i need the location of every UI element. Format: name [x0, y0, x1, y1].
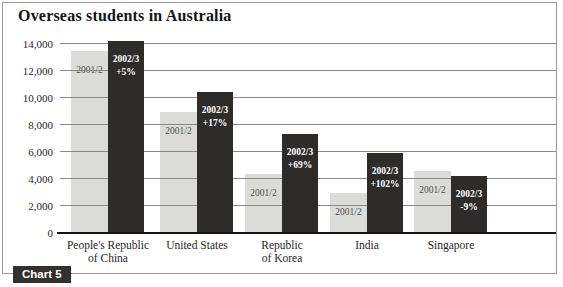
bar-series-label: 2002/3 [367, 153, 403, 178]
chart-number-badge: Chart 5 [13, 266, 71, 283]
bar-change-label: +5% [108, 66, 144, 79]
bar-series-label: 2001/2 [330, 193, 367, 219]
bar-2002-3: 2002/3+17% [197, 92, 233, 233]
bar-change-label: -9% [451, 201, 487, 214]
bar-series-label: 2002/3 [451, 176, 487, 201]
y-axis-tick-label: 12,000 [23, 65, 53, 77]
x-axis-baseline [57, 232, 556, 234]
y-axis-tick-label: 8,000 [28, 119, 53, 131]
bar-2002-3: 2002/3-9% [451, 176, 487, 233]
bar-change-label: +17% [197, 117, 233, 130]
bar-series-label: 2001/2 [414, 171, 451, 197]
y-axis-tick-label: 0 [48, 227, 54, 239]
bar-series-label: 2001/2 [71, 51, 108, 77]
bar-2001-2: 2001/2 [414, 171, 451, 233]
chart-page: Overseas students in Australia 02,0004,0… [0, 0, 563, 287]
y-axis-tick-label: 14,000 [23, 38, 53, 50]
bar-series-label: 2002/3 [282, 134, 318, 159]
bar-2002-3: 2002/3+5% [108, 41, 144, 233]
bar-2002-3: 2002/3+102% [367, 153, 403, 233]
y-axis-tick-label: 10,000 [23, 92, 53, 104]
y-axis-tick-label: 6,000 [28, 146, 53, 158]
bar-series-label: 2002/3 [108, 41, 144, 66]
bar-change-label: +69% [282, 159, 318, 172]
chart-title: Overseas students in Australia [18, 7, 232, 25]
bar-change-label: +102% [367, 178, 403, 191]
bar-series-label: 2001/2 [160, 112, 197, 138]
bar-series-label: 2002/3 [197, 92, 233, 117]
bar-2001-2: 2001/2 [160, 112, 197, 233]
bar-2001-2: 2001/2 [245, 174, 282, 233]
y-axis: 02,0004,0006,0008,00010,00012,00014,000 [6, 44, 53, 233]
category-label: Singapore [376, 239, 526, 252]
bar-2001-2: 2001/2 [330, 193, 367, 233]
plot-area: 2001/22002/3+5%2001/22002/3+17%2001/2200… [60, 44, 556, 233]
y-axis-tick-label: 4,000 [28, 173, 53, 185]
bar-2002-3: 2002/3+69% [282, 134, 318, 233]
y-axis-tick-label: 2,000 [28, 200, 53, 212]
